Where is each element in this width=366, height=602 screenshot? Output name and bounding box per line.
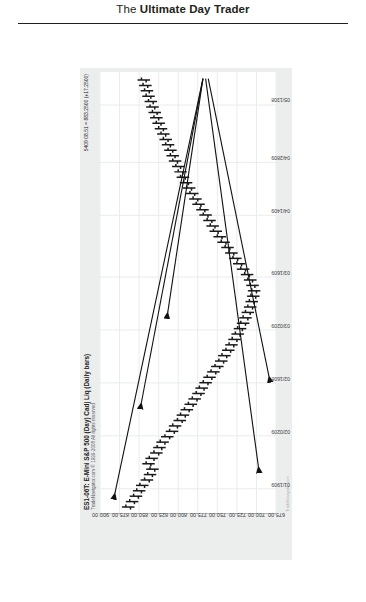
x-tick-label: 03/1609 xyxy=(271,270,290,276)
chart-quote-annotation: 5409 08.51 = 883.2500 (+17.2500) xyxy=(83,74,89,151)
chart-rotated-container: ES1-06T: E-Mini S&P 500 (Day) Cadj Liq (… xyxy=(80,68,292,560)
y-tick-label: 850.00 xyxy=(131,512,148,518)
running-head: The Ultimate Day Trader xyxy=(0,0,366,30)
x-tick-label: 02/1608 xyxy=(271,376,290,382)
y-tick-label: 900.00 xyxy=(92,512,109,518)
price-chart: ES1-06T: E-Mini S&P 500 (Day) Cadj Liq (… xyxy=(80,68,292,560)
y-tick-label: 750.00 xyxy=(209,512,226,518)
x-tick-label: 03/0209 xyxy=(271,323,290,329)
x-tick-label: 05/1308 xyxy=(271,97,290,103)
y-tick-label: 875.00 xyxy=(111,512,128,518)
running-head-bold: Ultimate Day Trader xyxy=(140,3,250,15)
trendline-resistance-mid xyxy=(141,79,203,403)
running-head-text: The Ultimate Day Trader xyxy=(116,3,249,15)
plot-area xyxy=(100,72,276,514)
x-tick-label: 02/0209 xyxy=(271,429,290,435)
x-tick-label: 04/1409 xyxy=(271,208,290,214)
trendline-support-upper xyxy=(206,79,259,467)
y-tick-label: 700.00 xyxy=(248,512,265,518)
x-tick-label: 01/1909 xyxy=(271,482,290,488)
y-tick-label: 775.00 xyxy=(190,512,207,518)
chart-title: ES1-06T: E-Mini S&P 500 (Day) Cadj Liq (… xyxy=(83,354,90,510)
figure-block: ES1-06T: E-Mini S&P 500 (Day) Cadj Liq (… xyxy=(14,34,352,594)
y-tick-label: 825.00 xyxy=(151,512,168,518)
y-tick-label: 675.00 xyxy=(268,512,285,518)
x-tick-label: 04/2809 xyxy=(271,155,290,161)
chart-drawing-layer xyxy=(100,72,276,513)
y-tick-label: 725.00 xyxy=(229,512,246,518)
y-tick-label: 800.00 xyxy=(170,512,187,518)
running-head-prefix: The xyxy=(116,3,139,15)
header-rule xyxy=(18,23,348,24)
chart-subtitle: TradeNavigator.com © 1999-2008 All right… xyxy=(91,403,96,510)
